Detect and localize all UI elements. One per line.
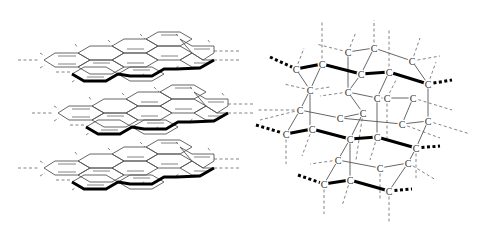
carbon-atom-label: C [410,93,417,104]
carbon-atom-label: C [319,59,326,70]
carbon-atom-label: C [293,64,300,75]
carbon-atom-label: C [425,79,432,90]
graphene-sheet-top [18,32,240,82]
carbon-atom-label: C [386,67,393,78]
carbon-atom-label: C [335,155,342,166]
carbon-atom-label: C [384,93,391,104]
carbon-atom-label: C [386,186,393,197]
graphite-structure [18,32,254,190]
carbon-atom-label: C [345,87,352,98]
carbon-atom-label: C [283,129,290,140]
carbon-atom-label: C [360,108,367,119]
carbon-atom-label: C [309,124,316,135]
graphene-sheet-middle [32,85,254,135]
carbon-atom-label: C [347,134,354,145]
graphene-sheet-bottom [18,140,240,190]
bold-chains [256,57,452,191]
carbon-atom-label: C [409,56,416,67]
figure-canvas: CCCCCCCCCCCCCCCCCCCCCCCCCCCCC [0,0,481,234]
carbon-atom-label: C [413,143,420,154]
carbon-atom-label: C [337,113,344,124]
diamond-structure: CCCCCCCCCCCCCCCCCCCCCCCCCCCCC [256,20,470,222]
carbon-atom-label: C [374,132,381,143]
carbon-atom-label: C [425,116,432,127]
carbon-atom-label: C [405,158,412,169]
carbon-atom-label: C [347,175,354,186]
carbon-atom-label: C [399,119,406,130]
carbon-atom-label: C [371,43,378,54]
carbon-atom-label: C [377,163,384,174]
carbon-atom-label: C [307,85,314,96]
dashed-bonds [258,20,470,222]
carbon-atom-label: C [374,93,381,104]
carbon-atom-label: C [321,179,328,190]
carbon-atom-label: C [297,105,304,116]
carbon-atom-label: C [345,47,352,58]
carbon-atom-label: C [358,69,365,80]
